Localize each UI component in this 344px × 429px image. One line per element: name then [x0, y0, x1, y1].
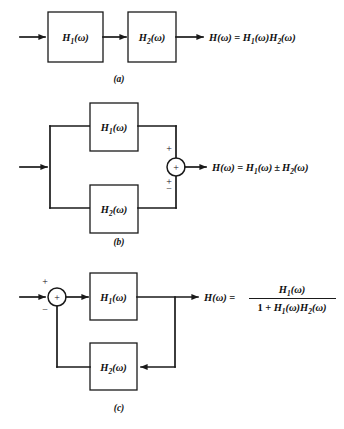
equation-c-lhs: H(ω)=	[203, 292, 235, 304]
caption-a: (a)	[113, 74, 124, 85]
equation-a: H(ω)=H1(ω)H2(ω)	[208, 32, 296, 46]
caption-b: (b)	[113, 237, 124, 248]
block-diagram-figure: H1(ω) H2(ω) H(ω)=H1(ω)H2(ω) (a) H1(ω) H2…	[0, 0, 344, 429]
equation-c-denominator: 1+H1(ω)H2(ω)	[257, 302, 326, 316]
equation-c-numerator: H1(ω)	[278, 284, 305, 298]
sign-negative-c: −	[42, 304, 48, 315]
caption-c: (c)	[114, 403, 125, 414]
summing-junction-b-inner-sign: +	[173, 162, 179, 173]
summing-junction-c-inner-sign: +	[54, 292, 60, 303]
diagram-c: + + − H1(ω) H2(ω) (c) H(ω)= H1(ω) 1+H1(ω…	[20, 273, 336, 414]
diagram-b: H1(ω) H2(ω) + + + − H(ω)=H1(ω)±H2(ω) (b)	[20, 103, 308, 248]
sign-bottom-secondary-b: −	[166, 183, 172, 194]
equation-b: H(ω)=H1(ω)±H2(ω)	[211, 162, 308, 176]
figure-root: H1(ω) H2(ω) H(ω)=H1(ω)H2(ω) (a) H1(ω) H2…	[0, 0, 344, 429]
equation-c: H(ω)= H1(ω) 1+H1(ω)H2(ω)	[203, 284, 336, 316]
sign-positive-c: +	[42, 276, 48, 287]
sign-top-b: +	[166, 143, 172, 154]
diagram-a: H1(ω) H2(ω) H(ω)=H1(ω)H2(ω) (a)	[20, 12, 296, 85]
